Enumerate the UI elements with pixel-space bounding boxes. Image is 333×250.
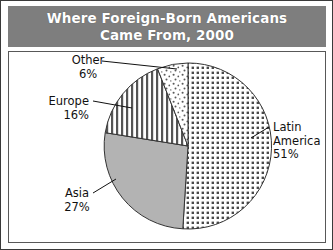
pie-label-latin-america: Latin America 51% [273,121,329,162]
pie-label-asia-percent: 27% [51,201,103,215]
chart-figure: Where Foreign-Born Americans Came From, … [0,0,333,250]
pie-label-latin-america-name-line-2: America [273,135,329,149]
pie-slice-asia [104,133,188,229]
pie-label-asia-name: Asia [51,187,103,201]
pie-label-asia: Asia 27% [51,187,103,214]
pie-label-other: Other 6% [59,54,117,81]
pie-label-latin-america-name-line-1: Latin [273,121,329,135]
pie-label-europe: Europe 16% [19,95,89,122]
pie-label-other-percent: 6% [59,68,117,82]
pie-label-other-name: Other [59,54,117,68]
pie-label-europe-percent: 16% [19,109,89,123]
pie-slice-latin-america [183,63,272,229]
pie-label-europe-name: Europe [19,95,89,109]
pie-label-latin-america-percent: 51% [273,148,329,162]
